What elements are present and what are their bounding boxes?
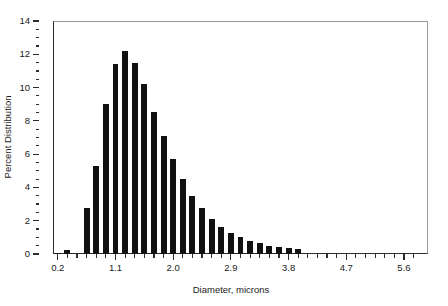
x-axis-tick-major [230,254,231,260]
x-axis-tick-minor [211,254,212,258]
y-axis-tick-major [33,120,39,121]
bar-series [53,21,428,254]
histogram-bar [266,246,272,254]
y-axis-tick-minor [36,170,40,171]
y-axis-tick-minor [36,228,40,229]
y-axis-tick-label: 10 [19,83,30,93]
y-axis-tick-major [33,87,39,88]
y-axis-tick-minor [36,37,40,38]
x-axis-tick-minor [182,254,183,258]
x-axis-tick-minor [269,254,270,258]
histogram-bar [170,159,176,254]
x-axis-tick-minor [221,254,222,258]
x-axis-tick-label: 2.0 [167,262,180,273]
x-axis-tick-minor [259,254,260,258]
x-axis-tick-minor [201,254,202,258]
x-axis-tick-minor [125,254,126,258]
x-axis-tick-minor [153,254,154,258]
x-axis-tick-minor [384,254,385,258]
x-axis-tick-minor [67,254,68,258]
x-axis-tick-minor [278,254,279,258]
y-axis-tick-minor [36,29,40,30]
y-axis-tick-minor [36,203,40,204]
y-axis-tick-label: 2 [25,216,30,226]
histogram-bar [209,219,215,254]
x-axis-tick-minor [365,254,366,258]
histogram-bar [141,84,147,254]
histogram-bar [180,179,186,254]
y-axis-tick-minor [36,162,40,163]
x-axis-tick-major [173,254,174,260]
histogram-bar [247,241,253,254]
y-axis-tick-minor [36,237,40,238]
y-axis-tick-label: 12 [19,50,30,60]
x-axis-title: Diameter, microns [193,284,270,295]
x-axis-tick-minor [394,254,395,258]
histogram-bar [161,136,167,254]
y-axis-tick-label: 4 [25,183,30,193]
y-axis-tick-major [33,20,39,21]
y-axis-tick-label: 8 [25,116,30,126]
histogram-bar [122,51,128,254]
y-axis-tick-label: 14 [19,16,30,26]
y-axis-tick-minor [36,129,40,130]
x-axis-tick-major [115,254,116,260]
y-axis-tick-minor [36,245,40,246]
histogram-bar [151,112,157,254]
y-axis-tick-minor [36,145,40,146]
x-axis-tick-minor [250,254,251,258]
histogram-bar [218,227,224,254]
y-axis-tick-minor [36,79,40,80]
x-axis-tick-minor [134,254,135,258]
x-axis-tick-minor [105,254,106,258]
x-axis-tick-label: 1.1 [109,262,122,273]
histogram-bar [189,196,195,254]
y-axis-tick-minor [36,112,40,113]
x-axis-tick-minor [317,254,318,258]
x-axis-tick-label: 2.9 [224,262,237,273]
y-axis-tick-major [33,220,39,221]
x-axis-tick-minor [86,254,87,258]
y-axis-tick-minor [36,195,40,196]
y-axis-tick-minor [36,137,40,138]
histogram-bar [276,247,282,254]
x-axis-tick-minor [96,254,97,258]
histogram-bar [113,64,119,254]
histogram-bar [84,208,90,254]
histogram-bar [228,233,234,254]
y-axis-tick-minor [36,70,40,71]
x-axis-tick-minor [375,254,376,258]
y-axis-tick-minor [36,62,40,63]
x-axis-tick-minor [355,254,356,258]
y-axis-tick-minor [36,95,40,96]
histogram-bar [132,63,138,254]
x-axis-tick-minor [336,254,337,258]
x-axis-tick-major [403,254,404,260]
x-axis-tick-minor [413,254,414,258]
y-axis-tick-minor [36,45,40,46]
y-axis-tick-major [33,187,39,188]
y-axis-tick-label: 6 [25,149,30,159]
y-axis-tick-major [33,54,39,55]
y-axis-tick-major [33,154,39,155]
histogram-figure: Percent Distribution 02468101214 Diamete… [0,0,448,306]
x-axis-tick-minor [144,254,145,258]
histogram-bar [103,104,109,254]
x-axis: Diameter, microns 0.21.12.02.93.84.75.6 [0,254,448,306]
x-axis-tick-label: 0.2 [51,262,64,273]
x-axis-tick-minor [326,254,327,258]
x-axis-tick-major [57,254,58,260]
x-axis-tick-label: 4.7 [340,262,353,273]
x-axis-tick-minor [307,254,308,258]
histogram-bar [238,237,244,254]
y-axis-tick-minor [36,212,40,213]
y-axis-title: Percent Distribution [2,96,13,179]
y-axis-tick-minor [36,104,40,105]
x-axis-tick-minor [298,254,299,258]
x-axis-tick-major [346,254,347,260]
histogram-bar [257,243,263,254]
x-axis-tick-minor [163,254,164,258]
x-axis-tick-minor [192,254,193,258]
histogram-bar [93,166,99,254]
x-axis-tick-minor [76,254,77,258]
